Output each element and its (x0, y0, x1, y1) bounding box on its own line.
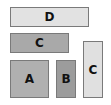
box-d: D (10, 7, 89, 27)
box-c-horizontal: C (10, 33, 69, 53)
box-c-horizontal-label: C (35, 36, 44, 50)
box-d-label: D (45, 10, 55, 24)
box-a-label: A (25, 72, 34, 86)
box-c-vertical-label: C (89, 63, 98, 77)
box-b: B (56, 60, 76, 98)
box-a: A (10, 60, 49, 98)
box-b-label: B (61, 72, 70, 86)
box-c-vertical: C (83, 41, 103, 98)
